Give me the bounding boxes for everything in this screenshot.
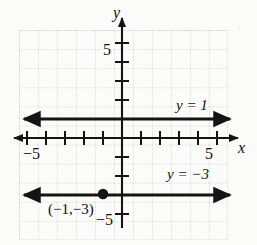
graph-screenshot: y x −5 5 5 −5 y = 1 y = −3 (−1,−3) [0,0,257,245]
x-tick-label-5: 5 [205,146,213,162]
line1-equation-label: y = 1 [176,98,208,113]
x-tick-label-neg5: −5 [23,146,40,162]
line2-equation-label: y = −3 [167,167,209,182]
point-coordinate-label: (−1,−3) [48,202,94,217]
y-tick-label-neg5: −5 [96,212,113,228]
x-axis [14,131,238,145]
y-tick-label-5: 5 [103,42,111,58]
y-axis-label: y [113,5,120,21]
plot-canvas [0,0,257,245]
x-axis-label: x [238,140,245,156]
plotted-point-marker [98,189,108,199]
